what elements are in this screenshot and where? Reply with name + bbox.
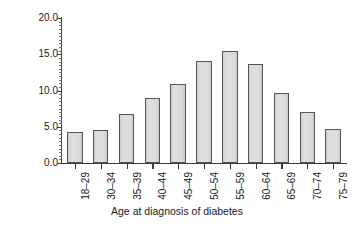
y-axis-tick-label: 5.0 [24,122,58,132]
bar [145,98,160,163]
x-axis-tick [127,164,128,169]
bar [119,114,134,163]
bar-series [62,18,346,163]
bar [196,61,211,163]
x-axis-tick [178,164,179,169]
bar [222,51,237,163]
bar [67,132,82,163]
x-axis-tick [307,164,308,169]
x-axis-tick [75,164,76,169]
x-axis-tick [101,164,102,169]
bar [274,93,289,163]
y-axis-tick-label: 15.0 [24,49,58,59]
bar [93,130,108,163]
bar [170,84,185,163]
x-axis-tick [281,164,282,169]
x-axis-tick [333,164,334,169]
y-axis-tick-label: 0.0 [24,158,58,168]
x-axis-tick [230,164,231,169]
bar [300,112,315,163]
y-axis-tick-labels: 0.05.010.015.020.0 [22,0,58,226]
x-axis-tick [152,164,153,169]
y-axis-tick-label: 20.0 [24,13,58,23]
x-axis-tick [204,164,205,169]
x-axis-tick-labels: 18–2930–3435–3940–4445–4950–5455–5960–64… [62,170,346,210]
bar [325,129,340,163]
plot-area [62,18,346,163]
y-axis-tick-label: 10.0 [24,86,58,96]
bar [248,64,263,163]
x-axis-title: Age at diagnosis of diabetes [0,205,354,218]
bar-chart-figure: Percentage 0.05.010.015.020.0 18–2930–34… [0,0,354,226]
x-axis-tick [256,164,257,169]
